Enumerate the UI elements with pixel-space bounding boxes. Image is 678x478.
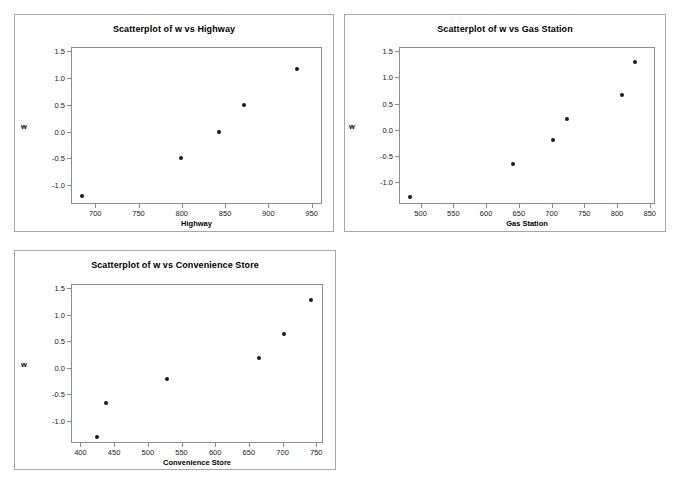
x-tick-mark	[249, 443, 250, 447]
y-tick-label: -1.0	[365, 178, 393, 187]
x-tick-mark	[316, 443, 317, 447]
x-axis-title: Gas Station	[506, 219, 548, 228]
x-tick-label: 600	[209, 448, 222, 457]
x-tick-label: 550	[175, 448, 188, 457]
chart-panel-convenience-store: Scatterplot of w vs Convenience Store 1.…	[14, 250, 336, 470]
x-tick-mark	[283, 443, 284, 447]
data-point	[179, 156, 183, 160]
x-tick-label: 800	[176, 209, 189, 218]
x-tick-mark	[453, 204, 454, 208]
x-tick-mark	[114, 443, 115, 447]
x-tick-label: 700	[545, 209, 558, 218]
y-axis-title: w	[21, 121, 27, 130]
y-tick-mark	[67, 315, 71, 316]
x-tick-mark	[95, 204, 96, 208]
data-point	[551, 138, 555, 142]
x-tick-label: 550	[447, 209, 460, 218]
x-tick-mark	[584, 204, 585, 208]
y-tick-mark	[67, 51, 71, 52]
y-tick-mark	[67, 132, 71, 133]
y-tick-mark	[395, 182, 399, 183]
y-tick-mark	[67, 105, 71, 106]
x-tick-mark	[552, 204, 553, 208]
y-tick-label: 1.5	[365, 47, 393, 56]
y-tick-mark	[395, 51, 399, 52]
x-tick-label: 950	[305, 209, 318, 218]
y-tick-label: 0.5	[365, 99, 393, 108]
x-tick-label: 600	[480, 209, 493, 218]
x-tick-mark	[650, 204, 651, 208]
x-tick-mark	[215, 443, 216, 447]
data-point	[257, 356, 261, 360]
x-axis-title: Convenience Store	[163, 458, 231, 467]
chart-panel-gas-station: Scatterplot of w vs Gas Station 1.51.00.…	[344, 14, 666, 232]
x-tick-label: 650	[243, 448, 256, 457]
y-tick-mark	[395, 130, 399, 131]
chart-title-highway: Scatterplot of w vs Highway	[15, 24, 333, 34]
x-tick-mark	[268, 204, 269, 208]
y-tick-label: -1.0	[37, 416, 65, 425]
y-tick-mark	[67, 341, 71, 342]
y-tick-label: 0.5	[37, 337, 65, 346]
data-point	[80, 194, 84, 198]
x-tick-mark	[519, 204, 520, 208]
plot-frame-highway	[71, 47, 322, 204]
y-tick-label: 0.0	[37, 127, 65, 136]
x-tick-mark	[80, 443, 81, 447]
y-tick-mark	[395, 104, 399, 105]
plot-area-convenience-store	[72, 285, 322, 442]
y-tick-mark	[67, 368, 71, 369]
y-tick-label: 0.0	[365, 125, 393, 134]
x-tick-label: 800	[611, 209, 624, 218]
plot-area-highway	[72, 48, 321, 203]
y-tick-label: 0.0	[37, 363, 65, 372]
y-axis-title: w	[21, 359, 27, 368]
y-tick-label: 0.5	[37, 100, 65, 109]
chart-title-gas-station: Scatterplot of w vs Gas Station	[345, 24, 665, 34]
x-tick-label: 750	[310, 448, 323, 457]
x-tick-label: 900	[262, 209, 275, 218]
x-tick-label: 850	[219, 209, 232, 218]
y-tick-label: -0.5	[37, 154, 65, 163]
y-tick-label: 1.0	[365, 73, 393, 82]
data-point	[309, 298, 313, 302]
x-tick-mark	[139, 204, 140, 208]
y-tick-mark	[395, 77, 399, 78]
data-point	[95, 435, 99, 439]
y-tick-label: 1.0	[37, 310, 65, 319]
y-tick-label: -0.5	[365, 151, 393, 160]
x-tick-label: 500	[414, 209, 427, 218]
x-tick-mark	[182, 443, 183, 447]
data-point	[282, 332, 286, 336]
y-tick-label: -0.5	[37, 390, 65, 399]
data-point	[408, 195, 412, 199]
y-tick-mark	[67, 421, 71, 422]
plot-frame-convenience-store	[71, 284, 323, 443]
y-tick-mark	[67, 288, 71, 289]
x-tick-label: 700	[276, 448, 289, 457]
x-tick-mark	[148, 443, 149, 447]
x-tick-label: 450	[108, 448, 121, 457]
x-tick-label: 400	[74, 448, 87, 457]
y-tick-mark	[67, 78, 71, 79]
x-tick-mark	[617, 204, 618, 208]
y-axis-title: w	[349, 121, 355, 130]
data-point	[104, 401, 108, 405]
y-tick-mark	[395, 156, 399, 157]
x-tick-label: 750	[132, 209, 145, 218]
y-tick-mark	[67, 158, 71, 159]
data-point	[295, 67, 299, 71]
data-point	[217, 130, 221, 134]
y-tick-label: -1.0	[37, 181, 65, 190]
data-point	[242, 103, 246, 107]
y-tick-label: 1.5	[37, 47, 65, 56]
y-tick-label: 1.5	[37, 284, 65, 293]
x-tick-label: 500	[142, 448, 155, 457]
y-tick-mark	[67, 394, 71, 395]
x-tick-mark	[486, 204, 487, 208]
x-tick-mark	[225, 204, 226, 208]
data-point	[165, 377, 169, 381]
y-tick-mark	[67, 185, 71, 186]
x-tick-mark	[312, 204, 313, 208]
x-tick-mark	[182, 204, 183, 208]
